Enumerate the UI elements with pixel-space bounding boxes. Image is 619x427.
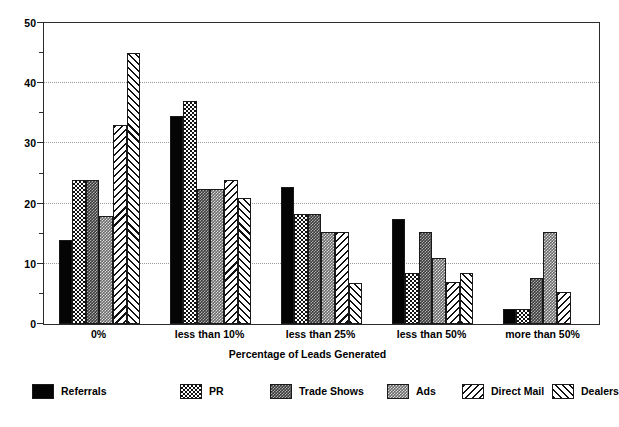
legend-label: Dealers (581, 386, 619, 397)
y-axis-tick (37, 203, 44, 204)
legend-label: Direct Mail (491, 386, 544, 397)
y-axis-tick (37, 82, 44, 83)
chart-legend: ReferralsPRTrade ShowsAdsDirect MailDeal… (32, 382, 584, 404)
bar (432, 258, 446, 324)
bar (446, 282, 460, 324)
bar (392, 219, 406, 324)
legend-item: Direct Mail (462, 382, 544, 400)
y-axis-minor-tick (39, 293, 44, 294)
y-axis-labels: 01020304050 (0, 22, 36, 325)
bar (503, 309, 517, 324)
legend-label: PR (209, 386, 224, 397)
legend-item: PR (180, 382, 224, 400)
legend-swatch (462, 384, 484, 399)
bar (530, 278, 544, 324)
bar (419, 232, 433, 324)
bar (113, 125, 127, 324)
x-axis-tick-label: more than 50% (505, 328, 580, 341)
legend-label: Ads (416, 386, 436, 397)
y-axis-tick-label: 20 (0, 198, 36, 209)
y-axis-tick (37, 142, 44, 143)
y-axis-tick-label: 0 (0, 319, 36, 330)
y-axis-tick-label: 50 (0, 18, 36, 29)
bar (183, 101, 197, 324)
legend-item: Ads (387, 382, 436, 400)
x-axis-title: Percentage of Leads Generated (0, 348, 615, 360)
x-axis-tick-label: less than 25% (286, 328, 355, 341)
x-axis-tick-label: less than 10% (175, 328, 244, 341)
bar (405, 273, 419, 324)
plot-area (43, 22, 600, 325)
bar (308, 214, 322, 324)
bar (99, 216, 113, 324)
y-axis-tick-label: 40 (0, 78, 36, 89)
bar (557, 292, 571, 324)
y-axis-minor-tick (39, 112, 44, 113)
legend-swatch (552, 384, 574, 399)
legend-swatch (180, 384, 202, 399)
bar (335, 232, 349, 324)
bar-group (59, 23, 141, 324)
bar (238, 198, 252, 324)
bar (170, 116, 184, 324)
bar (127, 53, 141, 324)
bar (543, 232, 557, 324)
bar (59, 240, 73, 324)
legend-label: Trade Shows (299, 386, 364, 397)
bar (224, 180, 238, 324)
y-axis-tick (37, 323, 44, 324)
bar (72, 180, 86, 324)
bar-group (281, 23, 363, 324)
bar (210, 189, 224, 324)
legend-item: Dealers (552, 382, 619, 400)
bar (197, 189, 211, 324)
bar (294, 214, 308, 324)
legend-label: Referrals (61, 386, 107, 397)
legend-item: Trade Shows (270, 382, 364, 400)
bar (281, 187, 295, 324)
y-axis-tick-label: 30 (0, 138, 36, 149)
y-axis-tick (37, 22, 44, 23)
bar (516, 309, 530, 324)
bar-group (170, 23, 252, 324)
legend-swatch (270, 384, 292, 399)
y-axis-minor-tick (39, 173, 44, 174)
x-axis-tick-label: less than 50% (397, 328, 466, 341)
y-axis-minor-tick (39, 233, 44, 234)
x-axis-tick-labels: 0%less than 10%less than 25%less than 50… (43, 328, 600, 344)
y-axis-tick-label: 10 (0, 259, 36, 270)
legend-item: Referrals (32, 382, 107, 400)
y-axis-minor-tick (39, 52, 44, 53)
x-axis-tick-label: 0% (91, 328, 106, 341)
y-axis-tick (37, 263, 44, 264)
bar-group (392, 23, 474, 324)
bar (321, 232, 335, 324)
bar (86, 180, 100, 324)
bar (349, 283, 363, 324)
bar (460, 273, 474, 324)
legend-swatch (387, 384, 409, 399)
bar-group (503, 23, 585, 324)
legend-swatch (32, 384, 54, 399)
